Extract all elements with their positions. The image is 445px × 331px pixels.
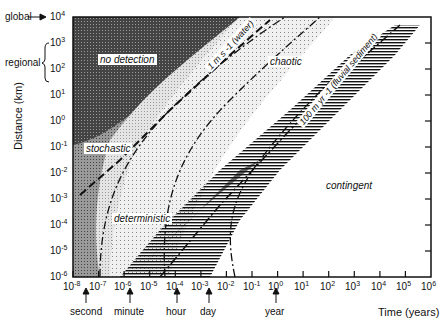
x-tick-1e-6: 10-6 [114, 280, 131, 292]
y-tick-1e0: 100 [50, 114, 65, 126]
x-axis-label: Time (years) [378, 306, 439, 318]
marker-hour: hour [166, 306, 186, 317]
x-tick-1e0: 100 [268, 280, 283, 292]
marker-second: second [70, 306, 102, 317]
y-tick-1e-4: 10-4 [50, 218, 67, 230]
y-tick-1e3: 103 [50, 36, 65, 48]
x-tick-1e6: 106 [421, 280, 436, 292]
global-label: global [5, 11, 32, 22]
y-tick-1e-2: 10-2 [50, 166, 67, 178]
region-label-chaotic: chaotic [268, 56, 304, 67]
regional-label: regional [5, 57, 41, 68]
region-label-stochastic: stochastic [84, 143, 132, 154]
y-tick-1e4: 104 [50, 10, 65, 22]
x-tick-1e-3: 10-3 [191, 280, 208, 292]
y-tick-1e1: 101 [50, 88, 65, 100]
x-tick-1e-5: 10-5 [140, 280, 157, 292]
marker-minute: minute [114, 306, 144, 317]
marker-day: day [200, 306, 216, 317]
y-tick-1e2: 102 [50, 62, 65, 74]
y-tick-1e-5: 10-5 [50, 244, 67, 256]
x-tick-1e-8: 10-8 [63, 280, 80, 292]
region-label-contingent: contingent [326, 180, 372, 191]
x-tick-1e-4: 10-4 [166, 280, 183, 292]
x-tick-1e-1: 10-1 [243, 280, 260, 292]
marker-year: year [265, 306, 284, 317]
x-tick-1e4: 104 [371, 280, 386, 292]
y-axis-label: Distance (km) [12, 82, 24, 150]
caption-fragment [0, 322, 445, 331]
x-tick-1e1: 101 [294, 280, 309, 292]
x-tick-1e2: 102 [320, 280, 335, 292]
y-tick-1e-3: 10-3 [50, 192, 67, 204]
region-label-no-detection: no detection [98, 54, 157, 65]
region-label-deterministic: deterministic [112, 213, 172, 224]
y-tick-1e-1: 10-1 [50, 140, 67, 152]
x-tick-1e5: 105 [396, 280, 411, 292]
x-tick-1e3: 103 [345, 280, 360, 292]
x-tick-1e-2: 10-2 [217, 280, 234, 292]
x-tick-1e-7: 10-7 [89, 280, 106, 292]
